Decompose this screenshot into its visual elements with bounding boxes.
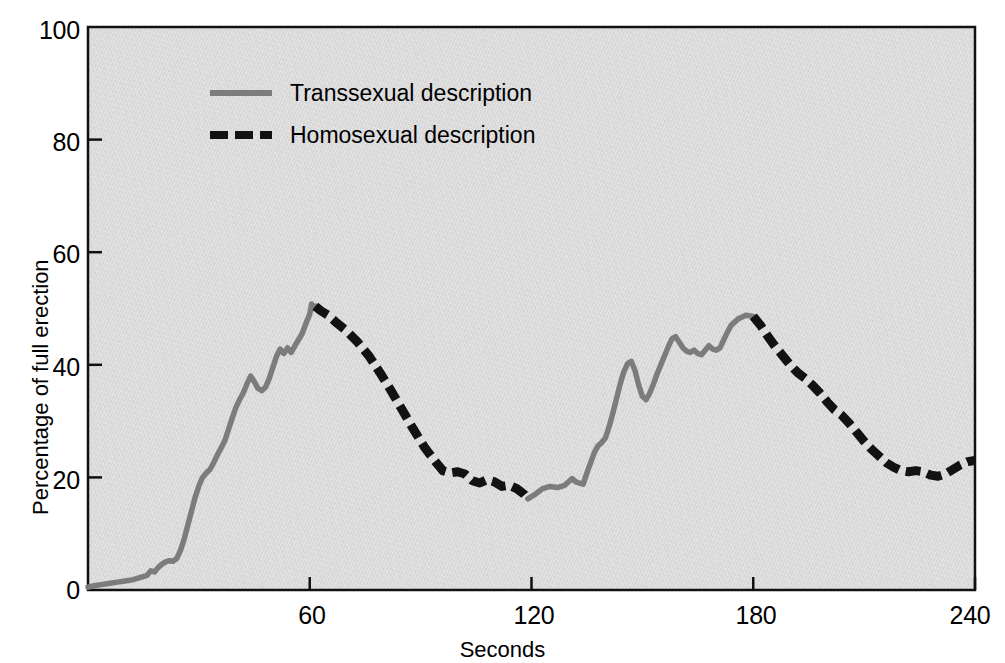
legend-key-solid-line-icon [210,90,272,96]
legend-item-transsexual: Transsexual description [210,72,535,114]
legend-label-transsexual: Transsexual description [290,80,532,107]
legend-item-homosexual: Homosexual description [210,114,535,156]
chart-legend: Transsexual description Homosexual descr… [210,72,535,156]
series-line-homosexual-1 [315,306,528,499]
legend-label-homosexual: Homosexual description [290,122,535,149]
legend-key-dashed-line-icon [210,131,272,139]
series-line-homosexual-3 [753,316,975,476]
chart-figure: Percentage of full erection 100 80 60 40… [0,0,1005,663]
series-line-transsexual-2 [528,315,753,499]
series-line-transsexual-0 [88,304,315,587]
data-series-group [88,304,975,587]
